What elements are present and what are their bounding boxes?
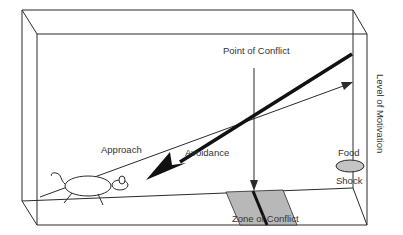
shock-label: Shock <box>336 175 363 186</box>
goal-food-shock <box>336 160 364 172</box>
point-of-conflict-label: Point of Conflict <box>223 45 290 56</box>
approach-arrowhead <box>341 82 353 90</box>
food-label: Food <box>338 147 360 158</box>
approach-label: Approach <box>101 144 142 155</box>
avoidance-gradient-line <box>180 54 352 162</box>
level-of-motivation-label: Level of Motivation <box>375 74 386 153</box>
avoidance-label: Avoidance <box>185 147 229 158</box>
approach-avoidance-diagram: Point of Conflict Approach Avoidance Foo… <box>0 0 403 235</box>
point-of-conflict-arrowhead <box>250 180 258 191</box>
zone-of-conflict-label: Zone of Conflict <box>232 213 299 224</box>
